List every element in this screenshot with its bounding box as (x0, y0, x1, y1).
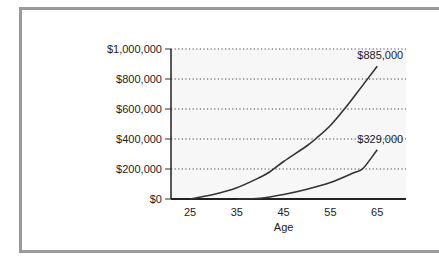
x-tick-label: 55 (324, 206, 336, 218)
x-axis-label: Age (274, 221, 294, 233)
x-tick-label: 45 (277, 206, 289, 218)
y-tick-label: $800,000 (116, 73, 162, 85)
y-axis: $0$200,000$400,000$600,000$800,000$1,000… (107, 43, 171, 205)
end-value-label: $329,000 (357, 133, 403, 145)
y-tick-label: $400,000 (116, 133, 162, 145)
y-tick-label: $0 (150, 193, 162, 205)
x-tick-label: 25 (184, 206, 196, 218)
plot-area (171, 49, 406, 199)
x-axis: 2535455565 (171, 199, 406, 218)
y-tick-label: $600,000 (116, 103, 162, 115)
end-value-label: $885,000 (357, 49, 403, 61)
y-tick-label: $200,000 (116, 163, 162, 175)
x-tick-label: 35 (231, 206, 243, 218)
y-tick-label: $1,000,000 (107, 43, 162, 55)
x-tick-label: 65 (371, 206, 383, 218)
